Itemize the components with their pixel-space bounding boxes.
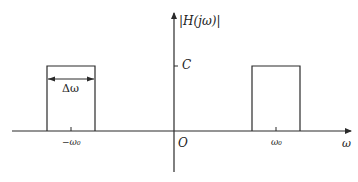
left-passband xyxy=(47,66,95,131)
origin-label: O xyxy=(178,136,188,150)
bandwidth-label: Δω xyxy=(62,82,79,95)
x-axis-label: ω xyxy=(342,137,351,150)
neg-center-label: −ω₀ xyxy=(62,137,81,147)
pos-center-label: ω₀ xyxy=(271,137,282,147)
c-level-label: C xyxy=(182,58,191,72)
magnitude-label: |H(jω)| xyxy=(179,14,220,28)
right-passband xyxy=(252,66,300,131)
